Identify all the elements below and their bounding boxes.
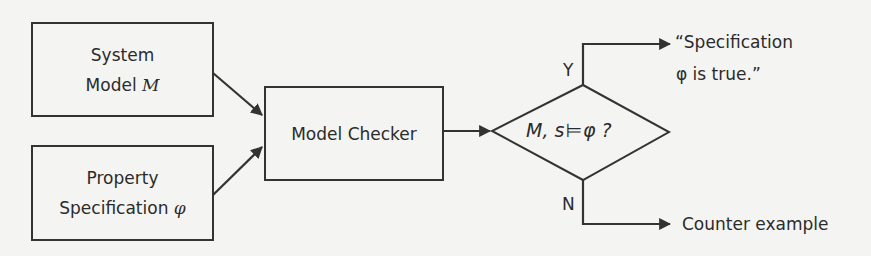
model-checking-diagram: System Model M Property Specification φ … [0,0,871,256]
model-checker-box: Model Checker [264,86,444,181]
output-true-line2: φ is true.” [676,66,761,83]
property-spec-prefix: Specification [59,198,174,218]
decision-pre: M, s [526,119,564,141]
arrow-yes-branch [583,44,670,85]
model-symbol: M [142,75,159,95]
decision-post: φ ? [583,119,612,141]
system-model-line1: System [91,40,154,70]
arrow-system-to-checker [213,73,262,115]
system-model-line2: Model M [86,70,160,100]
yes-branch-label: Y [563,62,573,79]
property-spec-line2: Specification φ [59,193,185,223]
property-spec-line1: Property [87,163,159,193]
system-model-prefix: Model [86,75,142,95]
phi-symbol: φ [174,198,186,218]
output-counter-example: Counter example [682,216,829,233]
arrow-no-branch [583,180,670,224]
models-symbol: ⊨ [565,121,582,140]
model-checker-label: Model Checker [291,119,417,149]
output-true-line1: “Specification [675,34,793,51]
system-model-box: System Model M [31,22,214,117]
arrow-property-to-checker [213,147,262,195]
no-branch-label: N [562,196,575,213]
decision-condition: M, s⊨φ ? [526,121,612,140]
property-spec-box: Property Specification φ [31,145,214,241]
